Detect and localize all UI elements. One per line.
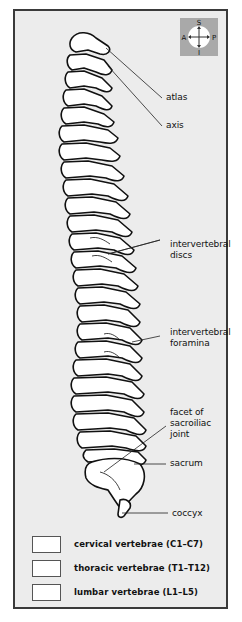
label-intervertebral-foramina: intervertebral foramina: [170, 327, 231, 349]
legend-swatch-cervical: [32, 536, 61, 553]
atlas-vertebra: [70, 33, 110, 55]
label-intervertebral-discs: intervertebral discs: [170, 239, 231, 261]
legend-label-cervical: cervical vertebrae (C1–C7): [74, 539, 203, 549]
spine-illustration: [0, 0, 242, 622]
legend-swatch-thoracic: [32, 560, 61, 577]
legend-label-lumbar: lumbar vertebrae (L1–L5): [74, 587, 198, 597]
sacrum-bone: [85, 459, 144, 511]
label-facet-sacroiliac-joint: facet of sacroiliac joint: [170, 407, 211, 440]
label-sacrum: sacrum: [170, 458, 203, 469]
legend-item-lumbar: lumbar vertebrae (L1–L5): [32, 584, 232, 602]
legend-label-thoracic: thoracic vertebrae (T1–T12): [74, 563, 210, 573]
label-axis: axis: [166, 120, 184, 131]
coccyx-bone: [118, 499, 130, 517]
legend-swatch-lumbar: [32, 584, 61, 601]
legend-item-thoracic: thoracic vertebrae (T1–T12): [32, 560, 232, 578]
label-coccyx: coccyx: [172, 508, 202, 519]
legend-item-cervical: cervical vertebrae (C1–C7): [32, 536, 232, 554]
label-atlas: atlas: [166, 92, 187, 103]
